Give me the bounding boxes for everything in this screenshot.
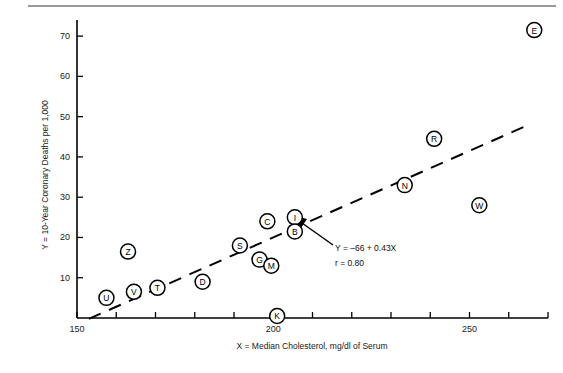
data-point-label: S: [237, 241, 243, 251]
data-point-label: G: [256, 255, 263, 265]
y-tick-label: 40: [60, 152, 70, 162]
data-point-w: W: [472, 198, 487, 213]
y-tick-label: 60: [60, 71, 70, 81]
plot-canvas: 10203040506070 150200250 UVTZDKSGMCIBNRW…: [0, 0, 563, 373]
y-axis-ticks: 10203040506070: [60, 31, 83, 283]
x-tick-label: 200: [266, 324, 281, 334]
x-tick-label: 250: [462, 324, 477, 334]
data-point-s: S: [232, 238, 247, 253]
y-tick-label: 10: [60, 273, 70, 283]
y-tick-label: 20: [60, 232, 70, 242]
data-point-i: I: [287, 210, 302, 225]
data-point-label: N: [402, 181, 408, 191]
data-point-b: B: [287, 224, 302, 239]
data-point-label: C: [264, 217, 270, 227]
data-point-label: M: [268, 261, 275, 271]
x-tick-label: 150: [69, 324, 84, 334]
data-point-n: N: [397, 178, 412, 193]
data-point-label: U: [103, 293, 109, 303]
data-point-label: Z: [125, 247, 130, 257]
data-point-t: T: [150, 280, 165, 295]
data-point-label: R: [431, 134, 437, 144]
data-point-label: E: [531, 26, 537, 36]
data-point-label: K: [274, 311, 280, 321]
data-point-label: I: [294, 213, 296, 223]
data-point-label: D: [200, 277, 206, 287]
data-point-k: K: [270, 308, 285, 323]
data-point-d: D: [195, 274, 210, 289]
data-point-label: V: [131, 287, 137, 297]
y-tick-label: 30: [60, 192, 70, 202]
axes-group: [77, 20, 548, 318]
data-point-v: V: [126, 284, 141, 299]
data-point-r: R: [427, 131, 442, 146]
scatter-plot-figure: Y = 10-Year Coronary Deaths per 1,000 X …: [0, 0, 563, 373]
data-point-e: E: [527, 23, 542, 38]
data-point-z: Z: [121, 244, 136, 259]
data-point-label: T: [155, 283, 160, 293]
data-point-label: W: [475, 201, 483, 211]
data-points-group: UVTZDKSGMCIBNRWE: [99, 23, 542, 324]
data-point-m: M: [264, 258, 279, 273]
y-tick-label: 50: [60, 112, 70, 122]
data-point-c: C: [260, 214, 275, 229]
data-point-label: B: [292, 227, 298, 237]
x-axis-ticks: 150200250: [69, 312, 548, 334]
y-tick-label: 70: [60, 31, 70, 41]
data-point-u: U: [99, 290, 114, 305]
